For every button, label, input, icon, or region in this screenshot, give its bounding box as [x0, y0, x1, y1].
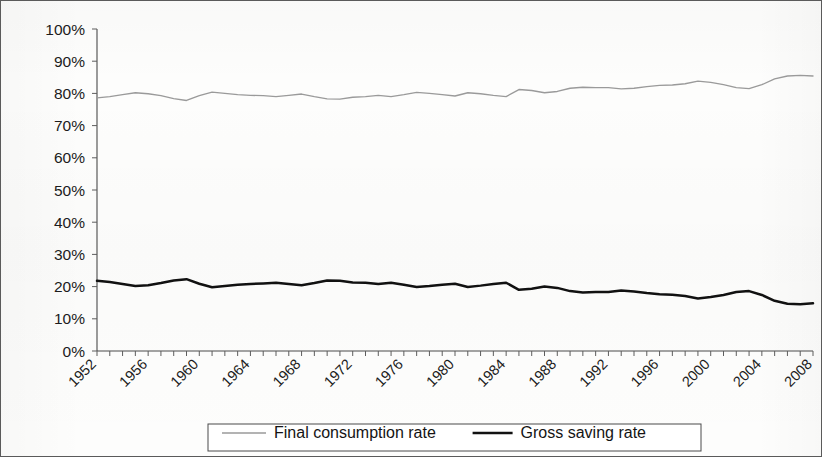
- x-tick-label: 1956: [116, 356, 150, 390]
- x-axis-tick-labels: 1952195619601964196819721976198019841988…: [65, 356, 815, 390]
- y-axis-tick-labels: 100%90%80%70%60%50%40%30%20%10%0%: [45, 21, 85, 360]
- y-tick-label: 40%: [54, 214, 85, 231]
- x-axis-ticks: [97, 351, 813, 356]
- y-tick-label: 0%: [63, 343, 86, 360]
- x-tick-label: 1972: [321, 356, 355, 390]
- series-line-final-consumption-rate: [97, 75, 813, 100]
- x-tick-label: 1968: [270, 356, 304, 390]
- x-tick-label: 1980: [423, 356, 457, 390]
- x-tick-label: 1960: [167, 356, 201, 390]
- x-tick-label: 1992: [576, 356, 610, 390]
- line-chart: 100%90%80%70%60%50%40%30%20%10%0% 195219…: [1, 1, 822, 457]
- x-tick-label: 2008: [781, 356, 815, 390]
- y-tick-label: 100%: [45, 21, 85, 38]
- x-tick-label: 2004: [730, 356, 764, 390]
- x-tick-label: 1996: [628, 356, 662, 390]
- x-tick-label: 1984: [474, 356, 508, 390]
- y-tick-label: 60%: [54, 149, 85, 166]
- y-tick-label: 70%: [54, 117, 85, 134]
- plot-area: 100%90%80%70%60%50%40%30%20%10%0% 195219…: [1, 1, 822, 457]
- data-series-layer: [97, 75, 813, 304]
- y-tick-label: 10%: [54, 310, 85, 327]
- chart-legend: Final consumption rateGross saving rate: [208, 424, 701, 451]
- y-tick-label: 90%: [54, 53, 85, 70]
- x-tick-label: 1952: [65, 356, 99, 390]
- y-axis-ticks: [92, 29, 97, 351]
- x-tick-label: 1976: [372, 356, 406, 390]
- y-tick-label: 80%: [54, 85, 85, 102]
- chart-figure: 100%90%80%70%60%50%40%30%20%10%0% 195219…: [0, 0, 822, 457]
- x-tick-label: 2000: [679, 356, 713, 390]
- series-line-gross-saving-rate: [97, 279, 813, 304]
- x-tick-label: 1988: [525, 356, 559, 390]
- y-tick-label: 30%: [54, 246, 85, 263]
- legend-label-2: Gross saving rate: [521, 424, 646, 441]
- legend-label-1: Final consumption rate: [274, 424, 436, 441]
- y-tick-label: 20%: [54, 278, 85, 295]
- y-tick-label: 50%: [54, 182, 85, 199]
- x-tick-label: 1964: [218, 356, 252, 390]
